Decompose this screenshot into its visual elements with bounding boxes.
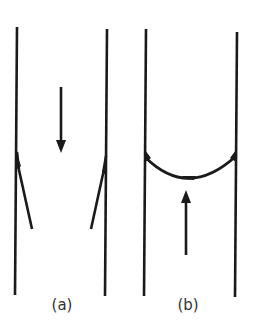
panel-a (15, 27, 107, 296)
panel-b-label: (b) (177, 296, 198, 314)
closed-valve-curve (145, 156, 236, 178)
valve-diagram (0, 0, 256, 327)
left-wall-b (144, 29, 146, 296)
panel-b (144, 29, 237, 297)
arrow-down-icon (56, 140, 66, 153)
right-wall-b (235, 32, 237, 297)
panel-a-label: (a) (52, 296, 73, 314)
arrow-up-icon (181, 190, 191, 203)
